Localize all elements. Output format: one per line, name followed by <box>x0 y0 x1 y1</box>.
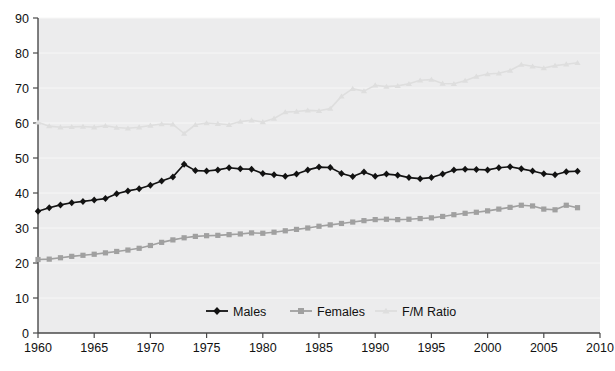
x-tick-label: 1975 <box>193 341 221 355</box>
data-point-marker <box>395 217 400 222</box>
x-tick-label: 1985 <box>305 341 333 355</box>
y-tick-label: 20 <box>15 257 29 271</box>
data-point-marker <box>238 231 243 236</box>
data-point-marker <box>69 254 74 259</box>
legend-label-males: Males <box>233 305 266 319</box>
x-tick-label: 1965 <box>80 341 108 355</box>
data-point-marker <box>339 221 344 226</box>
line-chart: 0102030405060708090 19601965197019751980… <box>0 0 615 371</box>
data-point-marker <box>418 216 423 221</box>
y-tick-label: 60 <box>15 117 29 131</box>
data-point-marker <box>182 235 187 240</box>
data-point-marker <box>92 252 97 257</box>
y-tick-label: 10 <box>15 292 29 306</box>
data-point-marker <box>193 234 198 239</box>
data-point-marker <box>298 308 304 314</box>
data-point-marker <box>103 250 108 255</box>
x-tick-label: 1990 <box>361 341 389 355</box>
data-point-marker <box>249 230 254 235</box>
data-point-marker <box>429 215 434 220</box>
x-tick-label: 2005 <box>530 341 558 355</box>
y-axis-ticks: 0102030405060708090 <box>15 12 38 341</box>
plot-area-background <box>38 18 600 333</box>
data-point-marker <box>496 207 501 212</box>
data-point-marker <box>114 249 119 254</box>
x-tick-label: 1960 <box>24 341 52 355</box>
data-point-marker <box>58 255 63 260</box>
x-tick-label: 2000 <box>474 341 502 355</box>
data-point-marker <box>148 243 153 248</box>
data-point-marker <box>80 253 85 258</box>
y-tick-label: 80 <box>15 47 29 61</box>
data-point-marker <box>384 217 389 222</box>
data-point-marker <box>552 207 557 212</box>
data-point-marker <box>564 203 569 208</box>
x-tick-label: 1980 <box>249 341 277 355</box>
y-tick-label: 0 <box>22 327 29 341</box>
data-point-marker <box>575 205 580 210</box>
y-tick-label: 90 <box>15 12 29 26</box>
data-point-marker <box>47 257 52 262</box>
data-point-marker <box>137 246 142 251</box>
data-point-marker <box>485 208 490 213</box>
data-point-marker <box>328 222 333 227</box>
data-point-marker <box>373 217 378 222</box>
data-point-marker <box>283 228 288 233</box>
data-point-marker <box>35 257 40 262</box>
data-point-marker <box>530 203 535 208</box>
data-point-marker <box>170 237 175 242</box>
data-point-marker <box>316 224 321 229</box>
legend-label-f-m-ratio: F/M Ratio <box>402 305 456 319</box>
legend-label-females: Females <box>317 305 365 319</box>
data-point-marker <box>125 247 130 252</box>
data-point-marker <box>215 233 220 238</box>
chart-canvas: 0102030405060708090 19601965197019751980… <box>0 0 615 371</box>
data-point-marker <box>507 205 512 210</box>
x-tick-label: 1995 <box>417 341 445 355</box>
data-point-marker <box>350 219 355 224</box>
y-tick-label: 30 <box>15 222 29 236</box>
data-point-marker <box>294 227 299 232</box>
data-point-marker <box>226 232 231 237</box>
y-tick-label: 40 <box>15 187 29 201</box>
data-point-marker <box>305 225 310 230</box>
x-axis-ticks: 1960196519701975198019851990199520002005… <box>24 333 614 355</box>
data-point-marker <box>463 211 468 216</box>
data-point-marker <box>260 231 265 236</box>
data-point-marker <box>159 240 164 245</box>
data-point-marker <box>361 218 366 223</box>
data-point-marker <box>406 217 411 222</box>
data-point-marker <box>541 207 546 212</box>
data-point-marker <box>440 214 445 219</box>
data-point-marker <box>451 212 456 217</box>
x-tick-label: 2010 <box>586 341 614 355</box>
data-point-marker <box>474 210 479 215</box>
data-point-marker <box>271 230 276 235</box>
y-tick-label: 70 <box>15 82 29 96</box>
chart-legend: MalesFemalesF/M Ratio <box>206 305 456 319</box>
data-point-marker <box>519 203 524 208</box>
x-tick-label: 1970 <box>136 341 164 355</box>
data-point-marker <box>204 233 209 238</box>
y-tick-label: 50 <box>15 152 29 166</box>
